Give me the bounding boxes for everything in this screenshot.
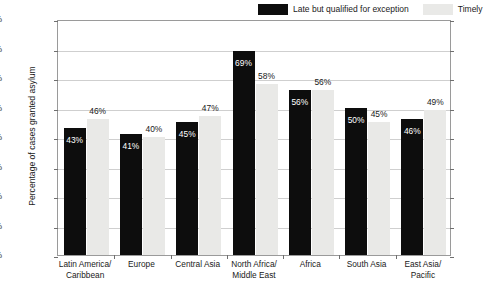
legend-swatch-dark: [258, 4, 288, 15]
bar-group: 56%56%: [289, 21, 334, 255]
legend-item-timely: Timely: [423, 4, 483, 15]
y-axis-tick-label: 0%: [0, 252, 2, 260]
x-axis-category-line: Pacific: [389, 270, 457, 281]
x-axis-category-line: Middle East: [220, 270, 288, 281]
bar-value-label: 45%: [368, 110, 390, 118]
bar-value-label: 40%: [143, 125, 165, 133]
bar-timely: 40%: [143, 137, 165, 255]
bar-late-but-qualified: 43%: [64, 128, 86, 255]
y-axis-tick-label: 10%: [0, 223, 2, 231]
bar-group: 46%49%: [401, 21, 446, 255]
legend-item-late-but-qualified: Late but qualified for exception: [258, 4, 409, 15]
y-axis-tick-label: 50%: [0, 105, 2, 113]
y-axis-tick-label: 30%: [0, 164, 2, 172]
bars-layer: 43%46%41%40%45%47%69%58%56%56%50%45%46%4…: [58, 21, 450, 255]
y-axis-tick-right: [450, 51, 454, 52]
y-axis-tick-label: 80%: [0, 16, 2, 24]
bar-value-label: 50%: [345, 116, 367, 124]
bar-value-label: 69%: [233, 59, 255, 67]
bar-value-label: 58%: [256, 72, 278, 80]
bar-late-but-qualified: 41%: [120, 134, 142, 255]
y-axis-tick-right: [450, 228, 454, 229]
legend-swatch-light: [423, 4, 453, 15]
bar-late-but-qualified: 50%: [345, 108, 367, 256]
bar-late-but-qualified: 46%: [401, 119, 423, 255]
y-axis-tick-right: [450, 21, 454, 22]
y-axis-tick-right: [450, 169, 454, 170]
y-axis-tick-label: 40%: [0, 134, 2, 142]
y-axis-tick-right: [450, 110, 454, 111]
bar-value-label: 49%: [424, 98, 446, 106]
x-axis-category-label: East Asia/Pacific: [389, 259, 457, 281]
bar-late-but-qualified: 45%: [176, 122, 198, 255]
y-axis-tick-label: 20%: [0, 193, 2, 201]
y-axis-tick-right: [450, 80, 454, 81]
bar-value-label: 47%: [199, 104, 221, 112]
bar-value-label: 46%: [87, 107, 109, 115]
bar-value-label: 56%: [312, 78, 334, 86]
bar-timely: 58%: [256, 84, 278, 255]
bar-timely: 45%: [368, 122, 390, 255]
bar-value-label: 46%: [401, 127, 423, 135]
y-axis-tick-label: 70%: [0, 46, 2, 54]
bar-timely: 46%: [87, 119, 109, 255]
bar-value-label: 45%: [176, 130, 198, 138]
bar-value-label: 43%: [64, 136, 86, 144]
legend-label-late-but-qualified: Late but qualified for exception: [293, 4, 409, 15]
x-axis-category-line: East Asia/: [389, 259, 457, 270]
bar-value-label: 41%: [120, 142, 142, 150]
y-axis-tick: [54, 257, 58, 258]
y-axis-title: Percentage of cases granted asylum: [27, 21, 37, 251]
bar-value-label: 56%: [289, 98, 311, 106]
plot-area: 43%46%41%40%45%47%69%58%56%56%50%45%46%4…: [57, 20, 451, 256]
bar-group: 41%40%: [120, 21, 165, 255]
legend-label-timely: Timely: [458, 4, 483, 15]
bar-timely: 49%: [424, 110, 446, 255]
bar-timely: 56%: [312, 90, 334, 255]
bar-group: 69%58%: [233, 21, 278, 255]
y-axis-tick-label: 60%: [0, 75, 2, 83]
bar-group: 43%46%: [64, 21, 109, 255]
bar-group: 45%47%: [176, 21, 221, 255]
x-axis-category-labels: Latin America/CaribbeanEuropeCentral Asi…: [57, 259, 451, 299]
y-axis-tick-right: [450, 198, 454, 199]
bar-late-but-qualified: 56%: [289, 90, 311, 255]
x-axis-category-line: Caribbean: [51, 270, 119, 281]
y-axis-tick-right: [450, 257, 454, 258]
chart-legend: Late but qualified for exception Timely: [258, 2, 464, 16]
y-axis-tick-right: [450, 139, 454, 140]
bar-timely: 47%: [199, 116, 221, 255]
bar-group: 50%45%: [345, 21, 390, 255]
bar-late-but-qualified: 69%: [233, 51, 255, 255]
